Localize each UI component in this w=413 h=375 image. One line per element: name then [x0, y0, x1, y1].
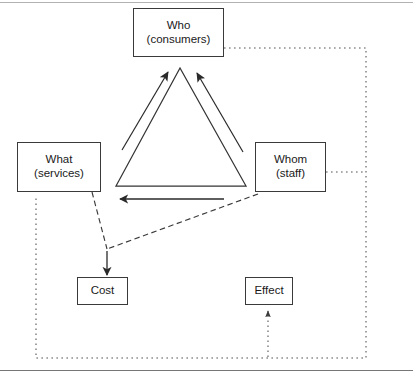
connector-whom-to-cost — [107, 194, 258, 249]
node-who: Who (consumers) — [133, 8, 224, 57]
node-what-line2: (services) — [34, 167, 84, 181]
node-whom: Whom (staff) — [255, 142, 326, 192]
figure-root: Who (consumers) What (services) Whom (st… — [0, 0, 413, 375]
node-effect-line1: Effect — [254, 284, 283, 298]
node-whom-line2: (staff) — [276, 167, 305, 181]
node-effect: Effect — [245, 277, 293, 305]
page-top-rule — [0, 2, 413, 3]
node-whom-line1: Whom — [274, 153, 307, 167]
node-what-line1: What — [46, 153, 73, 167]
connector-feedback-loop — [36, 48, 366, 358]
node-what: What (services) — [17, 142, 101, 192]
connector-what-to-who — [122, 72, 168, 150]
connector-what-to-cost — [92, 192, 107, 249]
node-cost-line1: Cost — [91, 284, 115, 298]
node-who-line1: Who — [167, 19, 191, 33]
page-bottom-rule — [0, 370, 413, 371]
node-who-line2: (consumers) — [147, 33, 211, 47]
node-cost: Cost — [77, 277, 128, 305]
